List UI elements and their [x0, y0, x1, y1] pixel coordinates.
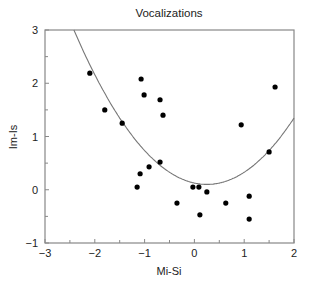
- x-tick-label: −1: [138, 247, 151, 259]
- data-point: [120, 121, 125, 126]
- data-point: [267, 149, 272, 154]
- data-point: [160, 113, 165, 118]
- data-point: [142, 92, 147, 97]
- y-tick-label: −1: [25, 237, 38, 249]
- y-tick-label: 3: [32, 24, 38, 36]
- plot-frame: [45, 30, 294, 243]
- y-tick-label: 0: [32, 184, 38, 196]
- x-tick-label: 1: [241, 247, 247, 259]
- scatter-chart: Vocalizations −3−2−1012−10123 Mi-Si Im-I…: [0, 0, 310, 282]
- data-point: [190, 184, 195, 189]
- y-tick-label: 1: [32, 131, 38, 143]
- data-point: [196, 184, 201, 189]
- fitted-curve: [74, 30, 294, 184]
- data-point: [139, 76, 144, 81]
- data-point: [204, 189, 209, 194]
- data-point: [138, 171, 143, 176]
- x-tick-label: 0: [191, 247, 197, 259]
- data-point: [197, 212, 202, 217]
- data-point: [146, 164, 151, 169]
- data-point: [239, 122, 244, 127]
- data-point: [174, 200, 179, 205]
- data-point: [135, 184, 140, 189]
- data-point: [223, 200, 228, 205]
- data-point: [272, 84, 277, 89]
- data-point: [157, 159, 162, 164]
- data-point: [247, 194, 252, 199]
- x-tick-label: −3: [39, 247, 52, 259]
- data-point: [87, 71, 92, 76]
- x-tick-label: 2: [291, 247, 297, 259]
- data-point: [102, 107, 107, 112]
- data-point: [247, 216, 252, 221]
- chart-title: Vocalizations: [135, 7, 202, 19]
- x-tick-label: −2: [89, 247, 102, 259]
- plot-area: −3−2−1012−10123: [25, 24, 297, 259]
- y-axis-label: Im-Is: [7, 124, 19, 149]
- y-tick-label: 2: [32, 77, 38, 89]
- x-axis-label: Mi-Si: [156, 265, 181, 277]
- data-point: [157, 97, 162, 102]
